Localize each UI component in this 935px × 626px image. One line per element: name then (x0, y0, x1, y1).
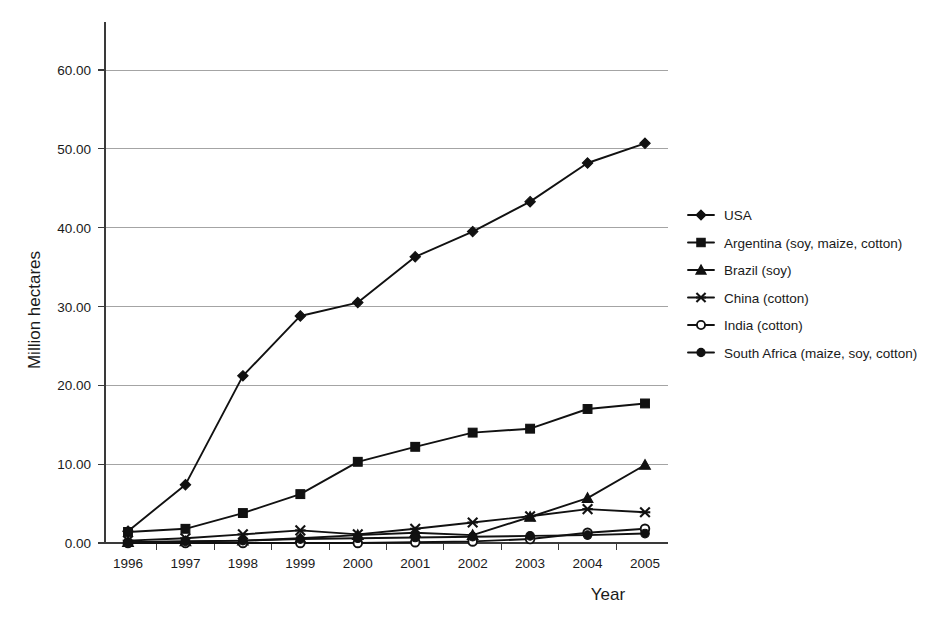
data-point-marker (640, 507, 651, 517)
data-point-marker (696, 210, 706, 220)
legend-label: China (cotton) (724, 291, 809, 306)
data-point-marker (583, 405, 592, 414)
y-tick-label: 0.00 (65, 536, 91, 551)
y-tick-label: 60.00 (57, 63, 91, 78)
legend-label: South Africa (maize, soy, cotton) (724, 346, 917, 361)
line-chart: 0.0010.0020.0030.0040.0050.0060.00 19961… (0, 0, 935, 626)
data-point-marker (353, 534, 362, 543)
data-point-marker (697, 321, 705, 329)
legend-item-3[interactable]: Brazil (soy) (688, 263, 792, 278)
x-tick-label: 1998 (228, 556, 258, 571)
data-point-marker (353, 457, 362, 466)
data-series-group (123, 138, 651, 547)
y-tick-label: 40.00 (57, 221, 91, 236)
legend: USAArgentina (soy, maize, cotton)Brazil … (688, 208, 917, 361)
data-point-marker (697, 238, 705, 246)
x-axis-title: Year (591, 585, 626, 604)
x-tick-marks-group (157, 543, 617, 550)
data-point-marker (124, 538, 133, 547)
data-point-marker (296, 490, 305, 499)
data-point-marker (641, 529, 650, 538)
data-point-marker (697, 348, 705, 356)
series-line (128, 403, 645, 531)
y-tick-labels-group: 0.0010.0020.0030.0040.0050.0060.00 (57, 63, 91, 551)
data-point-marker (467, 518, 478, 528)
data-point-marker (468, 428, 477, 437)
data-point-marker (641, 399, 650, 408)
data-point-marker (696, 293, 706, 302)
y-tick-label: 30.00 (57, 300, 91, 315)
series-3 (123, 460, 651, 547)
data-point-marker (583, 531, 592, 540)
x-tick-label: 2001 (400, 556, 430, 571)
legend-item-5[interactable]: India (cotton) (688, 318, 803, 333)
x-tick-label: 2002 (458, 556, 488, 571)
y-tick-marks-group (98, 70, 105, 543)
x-tick-label: 2005 (630, 556, 660, 571)
data-point-marker (582, 158, 592, 168)
legend-label: Argentina (soy, maize, cotton) (724, 236, 902, 251)
data-point-marker (181, 537, 190, 546)
series-1 (123, 138, 650, 536)
legend-label: Brazil (soy) (724, 263, 792, 278)
data-point-marker (526, 532, 535, 541)
legend-item-6[interactable]: South Africa (maize, soy, cotton) (688, 346, 917, 361)
y-tick-label: 20.00 (57, 378, 91, 393)
x-tick-label: 2000 (343, 556, 373, 571)
data-point-marker (238, 509, 247, 518)
data-point-marker (526, 424, 535, 433)
x-tick-label: 2003 (515, 556, 545, 571)
data-point-marker (468, 532, 477, 541)
data-point-marker (239, 536, 248, 545)
data-point-marker (525, 196, 535, 206)
data-point-marker (296, 535, 305, 544)
x-tick-label: 1996 (113, 556, 143, 571)
data-point-marker (124, 528, 133, 537)
data-point-marker (181, 524, 190, 533)
chart-figure: 0.0010.0020.0030.0040.0050.0060.00 19961… (0, 0, 935, 626)
data-point-marker (411, 442, 420, 451)
y-tick-label: 50.00 (57, 142, 91, 157)
y-axis-title: Million hectares (25, 251, 44, 369)
series-line (128, 143, 645, 531)
legend-label: USA (724, 208, 752, 223)
legend-label: India (cotton) (724, 318, 803, 333)
legend-item-2[interactable]: Argentina (soy, maize, cotton) (688, 236, 902, 251)
x-tick-label: 2004 (573, 556, 604, 571)
x-tick-label: 1999 (285, 556, 315, 571)
legend-item-4[interactable]: China (cotton) (688, 291, 809, 306)
x-tick-labels-group: 1996199719981999200020012002200320042005 (113, 556, 660, 571)
x-tick-label: 1997 (170, 556, 200, 571)
data-point-marker (640, 138, 650, 148)
data-point-marker (582, 504, 593, 514)
series-2 (124, 399, 650, 536)
y-tick-label: 10.00 (57, 457, 91, 472)
data-point-marker (582, 493, 593, 503)
data-point-marker (411, 533, 420, 542)
legend-item-1[interactable]: USA (688, 208, 752, 223)
